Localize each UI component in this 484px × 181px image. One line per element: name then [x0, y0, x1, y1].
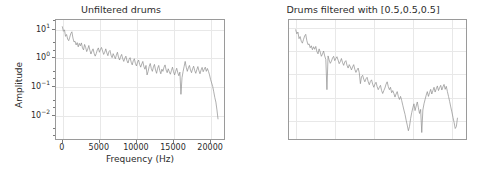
xtick-label: 0 — [59, 143, 64, 152]
ytick-label: 10−1 — [24, 82, 50, 91]
ytick-major — [52, 86, 55, 87]
ytick-major — [52, 57, 55, 58]
ytick-minor — [53, 78, 55, 79]
xtick-label: 5000 — [89, 143, 109, 152]
ytick-label: 101 — [28, 24, 50, 33]
plot-area-right — [288, 19, 467, 140]
chart-panel-filtered: Drums filtered with [0.5,0.5,0.5] — [242, 0, 484, 181]
ytick-minor — [53, 50, 55, 51]
ytick-label: 10−2 — [24, 110, 50, 119]
ytick-minor — [53, 135, 55, 136]
figure-canvas: Unfiltered drums — [0, 0, 484, 181]
xtick-label: 20000 — [197, 143, 222, 152]
chart-title-right: Drums filtered with [0.5,0.5,0.5] — [242, 4, 484, 16]
chart-panel-unfiltered: Unfiltered drums — [0, 0, 242, 181]
ytick-minor — [53, 42, 55, 43]
spectrum-trace-right — [289, 20, 466, 139]
plot-area-left — [55, 19, 225, 140]
ytick-minor — [53, 71, 55, 72]
xtick-label: 15000 — [160, 143, 185, 152]
spectrum-trace-left — [56, 20, 224, 139]
chart-title-left: Unfiltered drums — [0, 4, 242, 16]
ytick-label: 100 — [28, 53, 50, 62]
yaxis-label-left: Amplitude — [14, 62, 25, 108]
ytick-major — [52, 29, 55, 30]
ytick-minor — [53, 107, 55, 108]
ytick-minor — [53, 20, 55, 21]
ytick-minor — [53, 128, 55, 129]
xtick-label: 10000 — [123, 143, 148, 152]
ytick-major — [52, 115, 55, 116]
ytick-minor — [53, 100, 55, 101]
xaxis-label-left: Frequency (Hz) — [55, 154, 225, 165]
